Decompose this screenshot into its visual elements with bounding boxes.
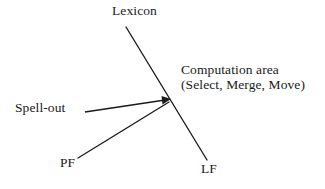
label-computation-operations: (Select, Merge, Move)	[181, 77, 305, 92]
label-computation-area: Computation area	[181, 62, 305, 77]
label-spell-out: Spell-out	[15, 100, 65, 115]
lexicon-to-lf-line	[126, 27, 207, 160]
computation-area-label-block: Computation area (Select, Merge, Move)	[181, 62, 305, 92]
spell-out-arrow-shaft	[85, 100, 164, 112]
label-lexicon: Lexicon	[112, 3, 157, 18]
label-lf: LF	[201, 161, 217, 176]
spell-out-arrow	[85, 96, 171, 112]
diagram-canvas: Lexicon Computation area (Select, Merge,…	[0, 0, 325, 189]
label-pf: PF	[60, 155, 75, 170]
diagram-vector-layer	[0, 0, 325, 189]
